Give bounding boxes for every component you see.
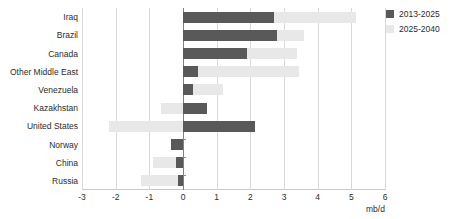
category-tick	[183, 139, 186, 140]
x-axis-tick-labels: -3-2-10123456	[0, 192, 453, 206]
bar-segment	[161, 103, 183, 114]
bar-segment	[183, 103, 207, 114]
x-tick-label: 1	[202, 192, 232, 203]
category-label: Iraq	[0, 12, 78, 22]
x-tick-label: -3	[67, 192, 97, 203]
category-tick	[183, 175, 186, 176]
bar-segment	[198, 66, 299, 77]
x-tick-label: -2	[101, 192, 131, 203]
x-tick-label: 4	[303, 192, 333, 203]
x-tick-label: 3	[269, 192, 299, 203]
legend-item[interactable]: 2025-2040	[386, 21, 453, 36]
x-tick-label: 6	[370, 192, 400, 203]
category-label: Norway	[0, 140, 78, 150]
gridline	[351, 8, 352, 190]
bar-segment	[277, 30, 304, 41]
x-tick-label: 0	[168, 192, 198, 203]
category-label: Russia	[0, 176, 78, 186]
category-axis-labels: IraqBrazilCanadaOther Middle EastVenezue…	[0, 0, 78, 219]
category-label: Kazakhstan	[0, 103, 78, 113]
bar-segment	[247, 48, 298, 59]
legend-swatch-2025-2040	[386, 25, 394, 33]
legend-item[interactable]: 2013-2025	[386, 6, 453, 21]
category-label: China	[0, 158, 78, 168]
category-label: Brazil	[0, 30, 78, 40]
bar-segment	[183, 66, 198, 77]
x-tick-label: -1	[134, 192, 164, 203]
category-label: Venezuela	[0, 85, 78, 95]
bar-segment	[183, 12, 274, 23]
legend-label: 2013-2025	[399, 9, 440, 19]
x-tick-label: 2	[235, 192, 265, 203]
bar-segment	[178, 175, 183, 186]
category-label: Canada	[0, 49, 78, 59]
gridline	[149, 8, 150, 190]
bar-segment	[109, 121, 183, 132]
bar-segment	[183, 84, 193, 95]
plot-area	[82, 8, 385, 190]
gridline	[82, 8, 83, 190]
bar-segment	[141, 175, 178, 186]
x-tick-label: 5	[336, 192, 366, 203]
bar-segment	[171, 139, 183, 150]
x-axis-title: mb/d	[366, 204, 385, 215]
legend-label: 2025-2040	[399, 24, 440, 34]
category-tick	[183, 157, 186, 158]
bar-segment	[274, 12, 356, 23]
gridline	[318, 8, 319, 190]
x-axis-line	[82, 189, 385, 190]
gridline	[116, 8, 117, 190]
bar-segment	[176, 157, 183, 168]
legend-swatch-2013-2025	[386, 10, 394, 18]
bar-segment	[183, 30, 277, 41]
bar-chart: IraqBrazilCanadaOther Middle EastVenezue…	[0, 0, 453, 219]
category-label: Other Middle East	[0, 67, 78, 77]
bar-segment	[183, 48, 247, 59]
chart-legend: 2013-20252025-2040	[386, 6, 453, 36]
bar-segment	[153, 157, 177, 168]
bar-segment	[193, 84, 223, 95]
bar-segment	[183, 121, 255, 132]
category-label: United States	[0, 121, 78, 131]
